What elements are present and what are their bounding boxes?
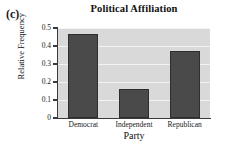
gridline bbox=[58, 28, 210, 29]
y-tick-label: 0.1 bbox=[21, 96, 51, 104]
y-tick-mark bbox=[53, 81, 57, 82]
x-tick-label-republican: Republican bbox=[155, 121, 215, 129]
bar-republican bbox=[170, 51, 200, 119]
y-tick-mark bbox=[53, 63, 57, 64]
y-axis-title: Relative Frequency bbox=[17, 0, 26, 96]
bar-democrat bbox=[68, 34, 98, 118]
bar-independent bbox=[119, 89, 149, 118]
plot-area bbox=[58, 28, 210, 118]
x-axis-title: Party bbox=[58, 131, 210, 141]
figure-panel: (c) Political Affiliation 00.10.20.30.40… bbox=[0, 0, 227, 148]
y-tick-mark bbox=[53, 27, 57, 28]
y-axis-line bbox=[57, 27, 58, 119]
y-tick-mark bbox=[53, 99, 57, 100]
y-tick-mark bbox=[53, 45, 57, 46]
chart-title: Political Affiliation bbox=[58, 3, 210, 15]
y-tick-label: 0 bbox=[21, 114, 51, 122]
y-tick-mark bbox=[53, 117, 57, 118]
